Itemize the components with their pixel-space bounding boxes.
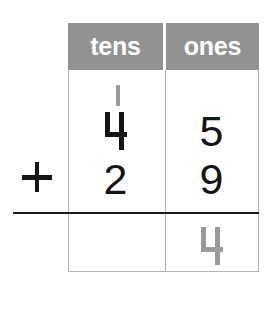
- addend1-ones-digit: 5: [164, 110, 259, 153]
- column-header-tens-label: tens: [90, 34, 141, 59]
- digit-four-glyph: [102, 110, 129, 150]
- column-header-ones-label: ones: [184, 34, 242, 59]
- plus-operator-icon: [22, 162, 52, 192]
- table-header-row: tens ones: [68, 23, 259, 70]
- addend2-tens-digit: 2: [68, 158, 163, 201]
- addend2-ones-digit: 9: [164, 158, 259, 201]
- carry-mark-tens: [116, 85, 120, 106]
- digit-four-glyph-answer: [198, 225, 225, 265]
- addend1-tens-digit: [68, 110, 163, 153]
- sum-ones-digit: [164, 225, 259, 268]
- column-header-ones: ones: [166, 23, 259, 70]
- sum-rule-line: [13, 212, 259, 214]
- addition-worksheet: tens ones 5 2 9: [0, 0, 272, 336]
- column-header-tens: tens: [68, 23, 163, 70]
